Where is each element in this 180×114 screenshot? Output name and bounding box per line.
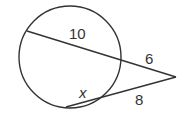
label-10: 10 xyxy=(69,25,86,42)
label-x: x xyxy=(78,84,87,101)
secant-diagram: 10 6 x 8 xyxy=(0,0,180,114)
label-6: 6 xyxy=(145,50,153,67)
upper-secant xyxy=(27,31,176,77)
label-8: 8 xyxy=(135,91,143,108)
circle xyxy=(19,6,121,108)
